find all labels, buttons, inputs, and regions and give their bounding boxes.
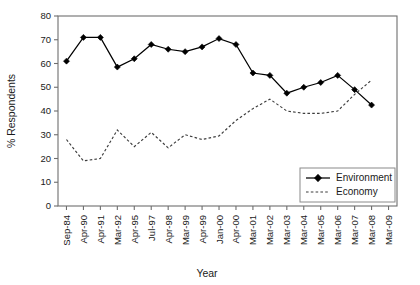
x-tick-label: Mar-08 <box>366 215 377 245</box>
x-axis: Sep-84Apr-90Apr-91Mar-92Apr-95Jul-97Apr-… <box>61 206 394 246</box>
y-tick-label: 20 <box>40 153 51 164</box>
y-axis: 01020304050607080 <box>40 10 58 211</box>
y-tick-label: 70 <box>40 34 51 45</box>
legend: Environment Economy <box>300 168 395 202</box>
x-tick-label: Apr-00 <box>230 215 241 244</box>
x-tick-label: Mar-01 <box>247 215 258 245</box>
x-tick-label: Mar-02 <box>264 215 275 245</box>
x-tick-label: Mar-05 <box>315 215 326 245</box>
x-tick-label: Mar-92 <box>112 215 123 245</box>
x-tick-label: Mar-03 <box>281 215 292 245</box>
y-tick-label: 50 <box>40 81 51 92</box>
x-tick-label: Sep-84 <box>61 215 72 246</box>
legend-label-environment: Environment <box>336 172 392 183</box>
y-tick-label: 40 <box>40 105 51 116</box>
x-tick-label: Apr-90 <box>78 215 89 244</box>
x-tick-label: Mar-04 <box>298 215 309 245</box>
chart-container: 01020304050607080 Sep-84Apr-90Apr-91Mar-… <box>0 0 420 285</box>
x-tick-label: Apr-91 <box>95 215 106 244</box>
x-tick-label: Jan-00 <box>214 215 225 244</box>
y-tick-label: 80 <box>40 10 51 21</box>
x-tick-label: Jul-97 <box>146 215 157 241</box>
line-chart: 01020304050607080 Sep-84Apr-90Apr-91Mar-… <box>0 0 420 285</box>
y-tick-label: 30 <box>40 129 51 140</box>
x-tick-label: Mar-09 <box>383 215 394 245</box>
legend-label-economy: Economy <box>336 186 378 197</box>
x-tick-label: Mar-99 <box>180 215 191 245</box>
x-tick-label: Mar-06 <box>332 215 343 245</box>
x-axis-title: Year <box>196 267 218 279</box>
x-tick-label: Apr-95 <box>129 215 140 244</box>
y-tick-label: 60 <box>40 58 51 69</box>
x-tick-label: Mar-07 <box>349 215 360 245</box>
y-tick-label: 10 <box>40 176 51 187</box>
y-axis-title: % Respondents <box>5 74 17 148</box>
x-tick-label: Apr-98 <box>163 215 174 244</box>
x-tick-label: Apr-99 <box>197 215 208 244</box>
y-tick-label: 0 <box>46 200 51 211</box>
